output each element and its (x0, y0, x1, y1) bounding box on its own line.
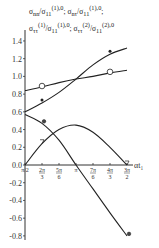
x-tick-label: 5π (56, 167, 62, 173)
y-tick-label: 0.6 (12, 108, 22, 117)
legend-line-2: σττ(1)/σ11(1),0; σττ(2)/σ11(2),0 (29, 19, 114, 36)
curve-triangle (25, 125, 127, 165)
circle-marker-icon (39, 83, 45, 89)
x-tick-label-denominator: 2 (126, 174, 129, 180)
legend-line-1: σnn/σ11(1),0; σnτ/σ11(1),0; (29, 2, 114, 19)
y-tick-label: 1.2 (12, 55, 22, 64)
x-tick-label-denominator: 3 (41, 174, 44, 180)
x-tick-label: 7π (90, 167, 96, 173)
y-tick-label: -0.8 (9, 232, 22, 241)
x-tick-label: 2π (39, 167, 45, 173)
dot-marker-icon (127, 232, 131, 236)
dot-marker-icon (42, 120, 46, 124)
asterisk-marker-icon (109, 50, 112, 53)
y-tick-label: 0.2 (12, 143, 22, 152)
x-tick-label: 4π (107, 167, 113, 173)
x-tick-label-denominator: 3 (109, 174, 112, 180)
chart: 1.41.21.00.80.60.40.20.0-0.2-0.4-0.6-0.8… (0, 0, 159, 248)
y-tick-label: -0.4 (9, 196, 22, 205)
plot-area: 1.41.21.00.80.60.40.20.0-0.2-0.4-0.6-0.8… (0, 0, 159, 248)
x-tick-label: π/2 (21, 167, 29, 173)
legend: σnn/σ11(1),0; σnτ/σ11(1),0; σττ(1)/σ11(1… (29, 2, 114, 36)
y-tick-label: 1.4 (12, 37, 22, 46)
y-tick-label: 1.0 (12, 72, 22, 81)
y-tick-label: -0.6 (9, 214, 22, 223)
x-tick-label-denominator: 6 (92, 174, 95, 180)
circle-marker-icon (107, 69, 113, 75)
curve-asterisk (25, 48, 127, 112)
x-axis-label: αt₁ (134, 161, 143, 170)
asterisk-marker-icon (41, 98, 44, 101)
x-tick-label: 3π (124, 167, 130, 173)
y-tick-label: 0.4 (12, 126, 22, 135)
y-tick-label: -0.2 (9, 179, 22, 188)
x-tick-label: π (74, 167, 77, 173)
y-tick-label: 0.8 (12, 90, 22, 99)
x-tick-label-denominator: 6 (58, 174, 61, 180)
